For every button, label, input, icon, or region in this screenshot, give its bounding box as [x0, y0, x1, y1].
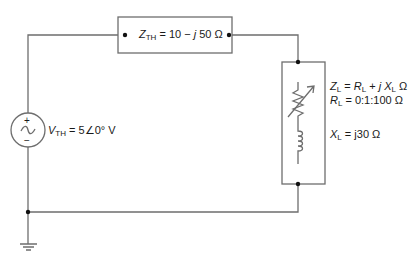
source-minus-sign: −	[24, 134, 30, 147]
node-dot	[26, 210, 30, 214]
xl-value: = j30 Ω	[342, 128, 381, 140]
zth-eq: = 10 −	[156, 28, 193, 40]
rl-value: = 0:1:100 Ω	[342, 94, 403, 106]
node-dot	[227, 33, 231, 37]
source-label-sub: TH	[55, 129, 66, 138]
zth-sub: TH	[146, 33, 157, 42]
wire-bottom	[28, 184, 298, 212]
rl-var: R	[330, 94, 338, 106]
zl-unit: Ω	[396, 80, 407, 92]
thevenin-impedance-label: ZTH = 10 − j 50 Ω	[139, 28, 223, 41]
zl-var: Z	[330, 80, 337, 92]
source-label-value: = 5∠0° V	[66, 124, 116, 136]
sine-wave-icon	[21, 126, 35, 133]
zl-plus: +	[366, 80, 379, 92]
node-dot	[296, 60, 300, 64]
load-impedance-box	[282, 62, 325, 184]
source-plus-sign: +	[24, 114, 30, 127]
wire-top-left	[28, 35, 118, 113]
source-voltage-label: VTH = 5∠0° V	[48, 124, 116, 137]
zl-r-var: R	[354, 80, 362, 92]
variable-resistor-icon	[293, 82, 303, 125]
zl-x-var: X	[381, 80, 391, 92]
load-reactance-label: XL = j30 Ω	[330, 128, 380, 141]
zth-value: 50 Ω	[196, 28, 223, 40]
load-resistance-sweep-label: RL = 0:1:100 Ω	[330, 94, 403, 107]
inductor-icon	[298, 125, 303, 164]
load-impedance-equation: ZL = RL + j XL Ω	[330, 80, 407, 93]
zl-eq: =	[341, 80, 354, 92]
ground-icon	[20, 244, 37, 250]
wire-top-right	[232, 35, 298, 62]
zth-var: Z	[139, 28, 146, 40]
node-dot	[296, 182, 300, 186]
node-dot	[123, 33, 127, 37]
